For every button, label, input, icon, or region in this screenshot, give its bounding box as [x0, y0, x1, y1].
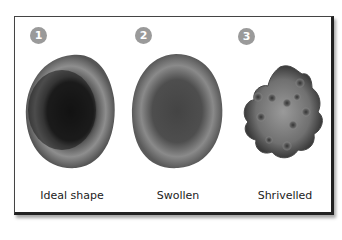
badge-1: 1 [30, 27, 47, 44]
badge-3: 3 [238, 28, 255, 45]
label-shrivelled: Shrivelled [235, 189, 335, 202]
label-swollen: Swollen [128, 189, 228, 202]
badge-2: 2 [135, 27, 152, 44]
label-ideal-shape: Ideal shape [22, 189, 122, 202]
swollen-cell [132, 54, 222, 168]
ideal-cell [26, 55, 115, 168]
shrivelled-cell [244, 66, 322, 158]
